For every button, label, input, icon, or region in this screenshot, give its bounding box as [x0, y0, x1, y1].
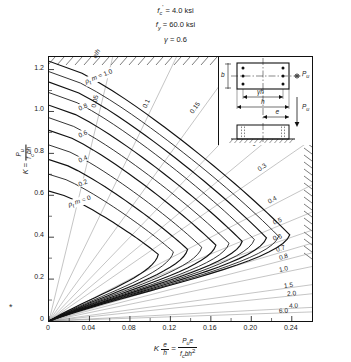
fc-prime: ': [162, 4, 163, 10]
eh-label: 6.0: [279, 307, 288, 314]
x-axis-title: K e h = Pue fcbh2: [0, 338, 351, 360]
y-axis-k: K: [21, 169, 30, 174]
x-tick-label: 0.24: [276, 324, 306, 331]
chart-root: fc' = 4.0 ksi fy = 60.0 ksi γ = 0.6 K = …: [0, 0, 351, 362]
inset-e-label: e: [276, 108, 280, 115]
x-tick-label: 0.04: [73, 324, 103, 331]
x-num-e: e: [190, 337, 194, 344]
fy-value: 60.0 ksi: [169, 20, 195, 29]
y-tick-label: 1.0: [18, 105, 44, 112]
x-axis-equals: =: [171, 344, 176, 353]
inset-canvas: [219, 57, 312, 144]
inset-h-label: h: [261, 98, 265, 105]
rho-curve-value: 1.0: [103, 68, 114, 78]
header-fc: fc' = 4.0 ksi: [0, 2, 351, 19]
eh-label: 2.0: [286, 289, 296, 297]
x-axis-fraction: Pue fcbh2: [178, 338, 197, 360]
inset-b-label: b: [221, 71, 225, 78]
rebar-dot: [242, 83, 245, 86]
fc-value: 4.0 ksi: [172, 6, 194, 15]
rebar-dot: [282, 67, 285, 70]
y-tick-label: 0: [18, 315, 44, 322]
x-tick-label: 0: [33, 324, 63, 331]
y-tick-label: 0.2: [18, 273, 44, 280]
inset-gammah-label: γh: [257, 88, 264, 95]
chart-header: fc' = 4.0 ksi fy = 60.0 ksi γ = 0.6: [0, 2, 351, 45]
pu-arrow-head: [295, 122, 300, 127]
x-tick-label: 0.20: [235, 324, 265, 331]
rebar-dot: [282, 83, 285, 86]
gamma-symbol: γ: [164, 35, 168, 44]
y-tick-label: 0.4: [18, 231, 44, 238]
rebar-dot: [242, 67, 245, 70]
x-axis-e: e: [163, 341, 167, 348]
inset-pu-top-label: Pu: [302, 70, 309, 79]
y-tick-label: 0.8: [18, 147, 44, 154]
header-fy: fy = 60.0 ksi: [0, 19, 351, 34]
section-inset-diagram: bγhhePuPu: [218, 57, 312, 145]
gamma-value: 0.6: [176, 35, 186, 44]
x-den-rest: bh: [185, 350, 192, 357]
y-tick-label: 0.6: [18, 189, 44, 196]
fc-subscript: c: [159, 10, 162, 16]
inset-pu-side-label: Pu: [302, 103, 309, 112]
x-tick-label: 0.08: [114, 324, 144, 331]
eh-label: 4.0: [289, 302, 298, 309]
gamma-equals: =: [170, 35, 174, 44]
pu-node-dot: [296, 75, 298, 77]
y-den-f: f: [26, 157, 33, 159]
x-axis-h: h: [163, 349, 167, 356]
x-tick-label: 0.12: [154, 324, 184, 331]
eh-label: 1.5: [283, 280, 293, 288]
x-axis-eh-fraction: e h: [161, 342, 169, 357]
x-axis-k: K: [154, 344, 159, 353]
y-axis-equals: =: [21, 163, 30, 167]
y-tick-label: 1.2: [18, 64, 44, 71]
x-den-sup: 2: [192, 348, 195, 354]
header-gamma: γ = 0.6: [0, 34, 351, 45]
fy-equals: =: [163, 20, 167, 29]
fc-equals: =: [165, 6, 169, 15]
x-tick-label: 0.16: [195, 324, 225, 331]
y-axis-title: K = Pu fcbh: [16, 130, 35, 190]
fy-subscript: y: [158, 25, 161, 31]
stray-mark: *: [9, 302, 13, 312]
